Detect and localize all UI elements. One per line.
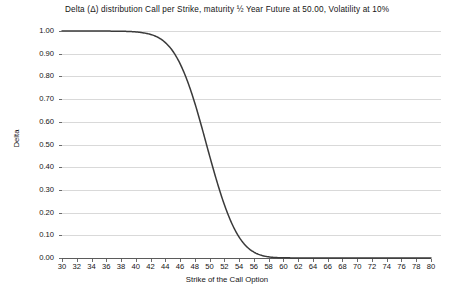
y-axis-tick-label: 0.30 [20, 186, 54, 194]
x-axis-tick-mark [372, 259, 373, 262]
x-axis-tick-mark [254, 259, 255, 262]
x-axis-tick-mark [313, 259, 314, 262]
y-axis-tick-label: 0.50 [20, 141, 54, 149]
x-axis-tick-mark [92, 259, 93, 262]
x-axis-tick-mark [180, 259, 181, 262]
y-axis-tick-label: 0.80 [20, 72, 54, 80]
y-axis-tick-mark [59, 31, 62, 32]
y-axis-tick-label: 0.00 [20, 254, 54, 262]
x-axis-tick-label: 80 [422, 263, 440, 271]
y-axis-tick-label: 0.10 [20, 231, 54, 239]
x-axis-tick-mark [165, 259, 166, 262]
y-axis-tick-label: 0.70 [20, 95, 54, 103]
x-axis-tick-mark [121, 259, 122, 262]
plot-area [62, 31, 431, 258]
y-axis-tick-label: 0.90 [20, 50, 54, 58]
y-axis-tick-label: 0.60 [20, 118, 54, 126]
x-axis-tick-mark [151, 259, 152, 262]
y-axis-tick-mark [59, 76, 62, 77]
chart-title: Delta (Δ) distribution Call per Strike, … [0, 5, 454, 14]
x-axis-tick-mark [387, 259, 388, 262]
x-axis-tick-mark [77, 259, 78, 262]
y-axis-tick-mark [59, 145, 62, 146]
x-axis-tick-mark [431, 259, 432, 262]
x-axis-tick-mark [401, 259, 402, 262]
delta-curve [62, 31, 431, 258]
y-axis-tick-mark [59, 167, 62, 168]
y-axis-tick-mark [59, 213, 62, 214]
y-axis-tick-mark [59, 99, 62, 100]
x-axis-tick-mark [106, 259, 107, 262]
y-axis-tick-label: 1.00 [20, 27, 54, 35]
y-axis-tick-mark [59, 122, 62, 123]
x-axis-tick-mark [210, 259, 211, 262]
x-axis-tick-mark [357, 259, 358, 262]
delta-distribution-chart: Delta (Δ) distribution Call per Strike, … [0, 0, 454, 298]
x-axis-tick-mark [283, 259, 284, 262]
x-axis-tick-mark [342, 259, 343, 262]
x-axis-tick-mark [269, 259, 270, 262]
x-axis-tick-mark [416, 259, 417, 262]
x-axis-tick-mark [239, 259, 240, 262]
y-axis-tick-label: 0.20 [20, 209, 54, 217]
y-axis-tick-label: 0.40 [20, 163, 54, 171]
x-axis-tick-mark [62, 259, 63, 262]
y-axis-tick-mark [59, 190, 62, 191]
y-axis-tick-mark [59, 235, 62, 236]
x-axis-tick-mark [195, 259, 196, 262]
x-axis-tick-mark [328, 259, 329, 262]
x-axis-tick-mark [298, 259, 299, 262]
x-axis-title: Strike of the Call Option [0, 275, 454, 284]
y-axis-tick-mark [59, 54, 62, 55]
x-axis-tick-mark [136, 259, 137, 262]
x-axis-tick-mark [224, 259, 225, 262]
